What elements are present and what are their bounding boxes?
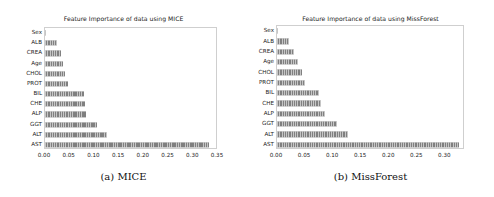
bar-alb bbox=[277, 39, 289, 44]
bar-row bbox=[277, 109, 465, 119]
chart-title-mice: Feature Importance of data using MICE bbox=[0, 15, 247, 22]
bar-crea bbox=[277, 49, 294, 54]
bar-ast bbox=[45, 142, 209, 147]
bar-che bbox=[277, 101, 321, 106]
caption-missforest: (b) MissForest bbox=[247, 171, 494, 182]
x-tick-label-0.20: 0.20 bbox=[137, 152, 149, 158]
y-tick-label-age: Age bbox=[234, 58, 274, 64]
x-tick-label-0.00: 0.00 bbox=[270, 152, 282, 158]
bar-alt bbox=[45, 132, 107, 137]
y-tick-label-prot: PROT bbox=[2, 80, 42, 86]
y-tick-label-age: Age bbox=[2, 60, 42, 66]
x-tick-label-0.30: 0.30 bbox=[438, 152, 450, 158]
bar-alp bbox=[45, 112, 86, 117]
y-tick-label-chol: CHOL bbox=[234, 69, 274, 75]
bar-row bbox=[277, 26, 465, 36]
bar-row bbox=[277, 67, 465, 77]
bar-age bbox=[277, 60, 298, 65]
bar-row bbox=[277, 88, 465, 98]
bar-row bbox=[45, 140, 218, 150]
x-tick-label-0.35: 0.35 bbox=[211, 152, 223, 158]
y-tick-label-alb: ALB bbox=[234, 38, 274, 44]
x-tick-label-0.10: 0.10 bbox=[87, 152, 99, 158]
bar-row bbox=[45, 69, 218, 79]
x-tick-label-0.00: 0.00 bbox=[38, 152, 50, 158]
plot-area-mice bbox=[44, 27, 217, 149]
y-tick-label-crea: CREA bbox=[234, 48, 274, 54]
bar-row bbox=[45, 59, 218, 69]
bar-row bbox=[277, 57, 465, 67]
bar-ggt bbox=[277, 122, 337, 127]
bar-row bbox=[45, 120, 218, 130]
bar-alt bbox=[277, 132, 348, 137]
bar-bil bbox=[45, 91, 84, 96]
bar-row bbox=[45, 89, 218, 99]
y-tick-label-alp: ALP bbox=[2, 110, 42, 116]
plot-area-missforest bbox=[276, 25, 464, 149]
bar-row bbox=[45, 109, 218, 119]
x-tick-label-0.05: 0.05 bbox=[298, 152, 310, 158]
figure-feature-importance: Feature Importance of data using MICE Se… bbox=[0, 0, 494, 197]
x-tick-label-0.25: 0.25 bbox=[410, 152, 422, 158]
bar-alb bbox=[45, 41, 57, 46]
y-tick-label-sex: Sex bbox=[234, 27, 274, 33]
bar-row bbox=[277, 78, 465, 88]
y-tick-label-ggt: GGT bbox=[234, 120, 274, 126]
y-tick-label-chol: CHOL bbox=[2, 70, 42, 76]
bar-prot bbox=[45, 81, 68, 86]
bar-row bbox=[45, 79, 218, 89]
bar-row bbox=[277, 119, 465, 129]
y-tick-label-alb: ALB bbox=[2, 39, 42, 45]
bar-row bbox=[277, 36, 465, 46]
bar-row bbox=[45, 130, 218, 140]
panel-mice: Feature Importance of data using MICE Se… bbox=[0, 0, 247, 197]
bar-chol bbox=[45, 71, 65, 76]
bar-age bbox=[45, 61, 63, 66]
bars-container-mice bbox=[45, 28, 216, 148]
y-tick-label-ast: AST bbox=[2, 141, 42, 147]
panel-missforest: Feature Importance of data using MissFor… bbox=[247, 0, 494, 197]
bar-row bbox=[277, 98, 465, 108]
bar-sex bbox=[45, 30, 46, 35]
bar-row bbox=[277, 47, 465, 57]
bar-bil bbox=[277, 91, 319, 96]
y-tick-label-ast: AST bbox=[234, 141, 274, 147]
x-tick-label-0.10: 0.10 bbox=[326, 152, 338, 158]
chart-title-missforest: Feature Importance of data using MissFor… bbox=[247, 15, 494, 22]
bar-row bbox=[45, 28, 218, 38]
bar-alp bbox=[277, 111, 325, 116]
y-tick-label-bil: BIL bbox=[2, 90, 42, 96]
bar-chol bbox=[277, 70, 302, 75]
bar-ast bbox=[277, 142, 459, 147]
bar-row bbox=[45, 99, 218, 109]
y-tick-label-prot: PROT bbox=[234, 79, 274, 85]
bar-row bbox=[45, 38, 218, 48]
bar-sex bbox=[277, 29, 278, 34]
x-tick-label-0.20: 0.20 bbox=[382, 152, 394, 158]
y-tick-label-ggt: GGT bbox=[2, 121, 42, 127]
bar-row bbox=[277, 129, 465, 139]
y-tick-label-alp: ALP bbox=[234, 110, 274, 116]
y-tick-label-che: CHE bbox=[234, 100, 274, 106]
y-tick-label-sex: Sex bbox=[2, 29, 42, 35]
x-tick-label-0.25: 0.25 bbox=[161, 152, 173, 158]
x-tick-label-0.15: 0.15 bbox=[112, 152, 124, 158]
bar-row bbox=[45, 48, 218, 58]
bar-row bbox=[277, 140, 465, 150]
y-tick-label-bil: BIL bbox=[234, 89, 274, 95]
bars-container-missforest bbox=[277, 26, 463, 148]
bar-ggt bbox=[45, 122, 97, 127]
x-tick-label-0.05: 0.05 bbox=[62, 152, 74, 158]
x-tick-label-0.30: 0.30 bbox=[186, 152, 198, 158]
y-tick-label-alt: ALT bbox=[234, 131, 274, 137]
x-tick-label-0.15: 0.15 bbox=[354, 152, 366, 158]
y-tick-label-che: CHE bbox=[2, 100, 42, 106]
caption-mice: (a) MICE bbox=[0, 171, 247, 182]
y-tick-label-crea: CREA bbox=[2, 49, 42, 55]
bar-prot bbox=[277, 80, 305, 85]
bar-che bbox=[45, 102, 85, 107]
bar-crea bbox=[45, 51, 61, 56]
y-tick-label-alt: ALT bbox=[2, 131, 42, 137]
